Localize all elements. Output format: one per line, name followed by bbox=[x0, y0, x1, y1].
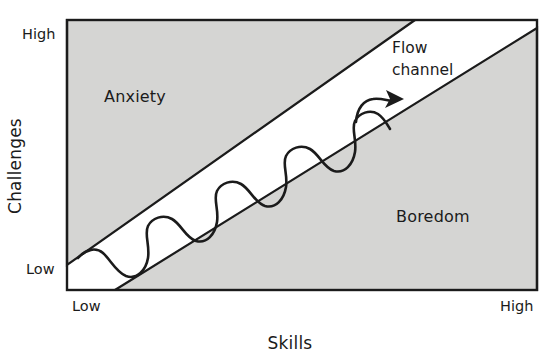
y-tick-low: Low bbox=[26, 261, 55, 278]
flow-channel-label-line1: Flow bbox=[392, 39, 427, 57]
x-tick-low: Low bbox=[72, 298, 101, 315]
y-axis-title: Challenges bbox=[6, 86, 26, 246]
anxiety-region-label: Anxiety bbox=[104, 88, 166, 106]
flow-channel-label-line2: channel bbox=[392, 61, 453, 79]
flow-arrowhead bbox=[385, 90, 404, 108]
boredom-region-label: Boredom bbox=[396, 208, 470, 226]
y-tick-high: High bbox=[22, 26, 55, 43]
flow-channel-diagram: Challenges Skills High Low Low High Anxi… bbox=[0, 0, 556, 360]
flow-channel-label: Flowchannel bbox=[392, 37, 453, 82]
x-tick-high: High bbox=[500, 298, 533, 315]
x-axis-title: Skills bbox=[230, 334, 350, 354]
flow-arrow-stem bbox=[356, 99, 391, 122]
